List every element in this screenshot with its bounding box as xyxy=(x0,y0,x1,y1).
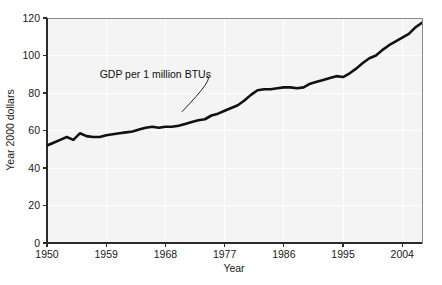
y-tick-label: 80 xyxy=(28,87,40,99)
x-tick-label: 1950 xyxy=(35,248,59,260)
y-axis-title: Year 2000 dollars xyxy=(4,89,16,170)
y-tick-label: 100 xyxy=(22,49,40,61)
y-tick-label: 40 xyxy=(28,162,40,174)
x-tick-label: 1977 xyxy=(213,248,237,260)
y-axis-ticks: 020406080100120 xyxy=(22,12,47,249)
x-tick-label: 2004 xyxy=(391,248,415,260)
y-tick-label: 20 xyxy=(28,199,40,211)
annotation-label: GDP per 1 million BTUs xyxy=(100,68,211,80)
y-tick-label: 0 xyxy=(34,237,40,249)
y-tick-label: 60 xyxy=(28,124,40,136)
y-tick-label: 120 xyxy=(22,12,40,24)
x-tick-label: 1986 xyxy=(272,248,296,260)
chart-canvas: 020406080100120 195019591968197719861995… xyxy=(0,0,442,285)
x-axis-title: Year xyxy=(223,262,245,274)
x-tick-label: 1968 xyxy=(154,248,178,260)
chart-figure: 020406080100120 195019591968197719861995… xyxy=(0,0,442,285)
x-tick-label: 1959 xyxy=(95,248,119,260)
x-tick-label: 1995 xyxy=(331,248,355,260)
x-axis-ticks: 1950195919681977198619952004 xyxy=(35,243,414,260)
